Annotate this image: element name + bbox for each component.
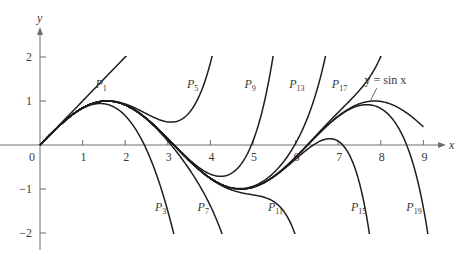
y-axis-label: y (36, 11, 43, 25)
x-tick-label: 2 (123, 150, 129, 164)
x-ticks: 0123456789 (29, 140, 427, 164)
x-tick-label: 7 (336, 150, 342, 164)
x-axis-label: x (448, 138, 455, 152)
taylor-polynomials-chart: x y 0123456789 21−1−2 P1P3P5P7P9P11P13P1… (0, 0, 471, 263)
label-p17: P17 (331, 77, 347, 93)
x-tick-label: 8 (379, 150, 385, 164)
x-tick-label: 0 (29, 150, 35, 164)
x-tick-label: 9 (421, 150, 427, 164)
label-p7: P7 (197, 200, 209, 216)
x-tick-label: 4 (208, 150, 214, 164)
curve-p17 (40, 32, 389, 189)
y-tick-label: −1 (19, 182, 32, 196)
x-tick-label: 1 (81, 150, 87, 164)
y-tick-label: 1 (26, 94, 32, 108)
y-tick-label: −2 (19, 226, 32, 240)
y-tick-label: 2 (26, 50, 32, 64)
x-axis-arrow-icon (438, 142, 446, 148)
label-p11: P11 (267, 200, 283, 216)
y-axis-arrow-icon (37, 27, 43, 35)
label-p13: P13 (288, 77, 304, 93)
curve-p9 (40, 31, 277, 176)
label-p3: P3 (154, 200, 166, 216)
curve-p11 (40, 101, 302, 256)
label-p19: P19 (405, 200, 421, 216)
x-tick-label: 3 (166, 150, 172, 164)
label-p5: P5 (186, 77, 198, 93)
annotation-pointer (371, 88, 377, 100)
label-ysinx: y = sin x (365, 73, 407, 87)
curve-p7 (40, 101, 230, 259)
curve-p19 (40, 101, 431, 256)
label-p1: P1 (94, 77, 106, 93)
x-tick-label: 5 (251, 150, 257, 164)
curve-p15 (40, 101, 372, 254)
axes: x y 0123456789 21−1−2 (0, 11, 455, 250)
curve-p3 (40, 104, 179, 256)
label-p9: P9 (243, 77, 255, 93)
